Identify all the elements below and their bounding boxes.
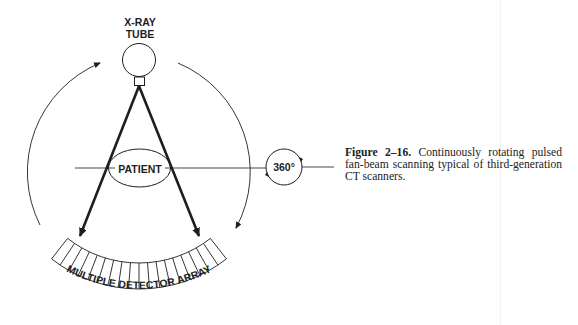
rotation-arc-right-icon	[178, 63, 250, 228]
figure-caption: Figure 2–16. Continuously rotating pulse…	[345, 147, 562, 182]
xray-tube-icon	[123, 44, 156, 86]
patient-label: PATIENT	[118, 163, 162, 175]
rotation-label: 360°	[273, 161, 295, 173]
rotation-360-indicator: 360°	[265, 149, 303, 185]
rotation-arc-left-icon	[27, 63, 100, 225]
tube-label-line2: TUBE	[126, 28, 155, 40]
tube-label-line1: X-RAY	[124, 16, 156, 28]
